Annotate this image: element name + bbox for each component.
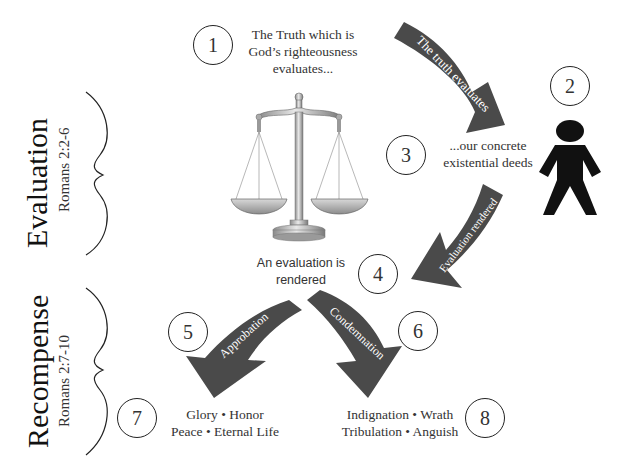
step-3-line-1: ...our concrete [428, 137, 548, 154]
section-recompense: Recompense [21, 295, 55, 448]
step-2-number: 2 [565, 75, 575, 98]
step-1-number: 1 [208, 34, 218, 57]
step-7-line-1: Glory • Honor [160, 406, 290, 423]
step-8-number: 8 [480, 407, 490, 430]
step-2-circle: 2 [550, 66, 590, 106]
step-8-text: Indignation • Wrath Tribulation • Anguis… [335, 406, 465, 440]
step-1-line-3: evaluates... [238, 60, 368, 77]
person-icon [539, 120, 601, 215]
step-8-circle: 8 [465, 398, 505, 438]
step-7-line-2: Peace • Eternal Life [160, 423, 290, 440]
step-7-text: Glory • Honor Peace • Eternal Life [160, 406, 290, 440]
section-title-evaluation: Evaluation [20, 118, 54, 248]
evaluation-brace [86, 92, 107, 255]
step-4-text: An evaluation is rendered [246, 255, 356, 289]
scales-of-justice-icon [231, 93, 368, 241]
step-5-circle: 5 [168, 312, 208, 352]
step-4-line-1: An evaluation is [246, 255, 356, 272]
step-5-number: 5 [183, 321, 193, 344]
step-6-number: 6 [413, 320, 423, 343]
recompense-brace [86, 288, 107, 455]
section-title-recompense: Recompense [21, 295, 55, 448]
step-1-line-2: God’s righteousness [238, 43, 368, 60]
step-1-circle: 1 [193, 25, 233, 65]
step-3-line-2: existential deeds [428, 154, 548, 171]
step-1-text: The Truth which is God’s righteousness e… [238, 26, 368, 77]
section-ref-evaluation: Romans 2:2-6 [56, 127, 73, 212]
step-7-circle: 7 [117, 398, 157, 438]
step-3-circle: 3 [386, 135, 426, 175]
step-4-circle: 4 [358, 254, 398, 294]
section-recompense-ref: Romans 2:7-10 [56, 335, 73, 427]
step-4-number: 4 [373, 263, 383, 286]
step-3-number: 3 [401, 144, 411, 167]
section-evaluation-ref: Romans 2:2-6 [56, 127, 73, 212]
section-ref-recompense: Romans 2:7-10 [56, 335, 73, 427]
step-4-line-2: rendered [246, 272, 356, 289]
arrow-approbation [186, 300, 302, 398]
step-6-circle: 6 [398, 311, 438, 351]
step-8-line-1: Indignation • Wrath [335, 406, 465, 423]
step-1-line-1: The Truth which is [238, 26, 368, 43]
step-3-text: ...our concrete existential deeds [428, 137, 548, 171]
step-8-line-2: Tribulation • Anguish [335, 423, 465, 440]
section-evaluation: Evaluation [20, 118, 54, 248]
step-7-number: 7 [132, 407, 142, 430]
